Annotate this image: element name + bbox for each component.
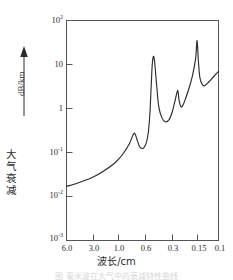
- x-tick-label: 0.3: [168, 243, 179, 253]
- x-tick-label: 1.0: [114, 243, 125, 253]
- x-tick-label: 0.6: [141, 243, 152, 253]
- x-tick-marks: [67, 235, 219, 241]
- x-axis-title: 波长/cm: [0, 256, 233, 268]
- figure-caption: 图 毫米波在大气中的衰减特性曲线: [0, 272, 233, 280]
- plot-area: [0, 0, 233, 280]
- x-tick-label: 0.1: [215, 243, 226, 253]
- x-tick-label: 0.15: [192, 243, 207, 253]
- x-tick-label: 6.0: [62, 243, 73, 253]
- x-tick-label: 3.0: [89, 243, 100, 253]
- attenuation-curve: [67, 41, 219, 187]
- y-tick-marks: [67, 21, 73, 241]
- figure-container: dB/km 大 气 衰 减 102 10 1 10-1 10-2 10-3: [0, 0, 233, 280]
